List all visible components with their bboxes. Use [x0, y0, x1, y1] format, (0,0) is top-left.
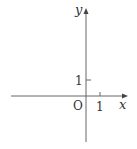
origin-label: O [73, 99, 83, 113]
x-axis-label: x [119, 97, 127, 112]
coordinate-plane: y x O 1 1 [0, 0, 137, 149]
y-axis-arrow-icon [84, 8, 89, 14]
y-tick-label: 1 [75, 74, 83, 88]
x-tick-label: 1 [96, 100, 104, 114]
y-axis-label: y [74, 2, 83, 17]
